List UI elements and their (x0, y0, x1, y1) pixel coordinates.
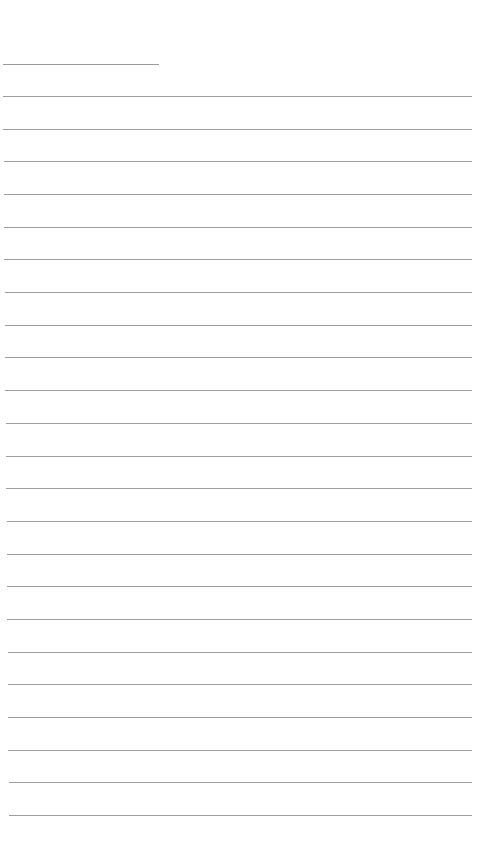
ruled-line (8, 652, 472, 653)
ruled-line (7, 554, 472, 555)
ruled-line (9, 782, 472, 783)
ruled-line (7, 619, 472, 620)
ruled-line (9, 815, 472, 816)
ruled-line (8, 750, 472, 751)
ruled-line (5, 325, 472, 326)
ruled-line (4, 259, 472, 260)
lined-paper-sheet (0, 0, 503, 850)
ruled-line (4, 161, 472, 162)
ruled-line (7, 521, 472, 522)
ruled-line (3, 129, 472, 130)
name-line (3, 64, 159, 65)
ruled-line (6, 423, 472, 424)
ruled-line (4, 194, 472, 195)
ruled-line (5, 292, 472, 293)
ruled-line (6, 488, 472, 489)
ruled-line (8, 717, 472, 718)
ruled-line (8, 684, 472, 685)
ruled-line (5, 390, 472, 391)
ruled-line (3, 96, 472, 97)
ruled-line (5, 357, 472, 358)
ruled-line (7, 586, 472, 587)
ruled-line (6, 456, 472, 457)
ruled-line (4, 227, 472, 228)
